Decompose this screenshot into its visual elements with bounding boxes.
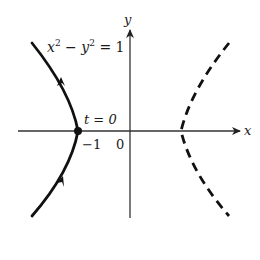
right-branch-curve bbox=[181, 43, 229, 216]
equation-label: x2 − y2 = 1 bbox=[47, 38, 124, 55]
tick-label-neg-one: −1 bbox=[82, 137, 101, 152]
tick-label-zero: 0 bbox=[116, 137, 124, 152]
y-axis-label: y bbox=[123, 12, 132, 27]
vertex-point bbox=[74, 127, 82, 135]
point-label: t = 0 bbox=[84, 112, 117, 127]
x-axis-label: x bbox=[244, 123, 252, 138]
left-branch-curve bbox=[32, 43, 78, 216]
hyperbola-diagram: x y x2 − y2 = 1 t = 0 −1 0 bbox=[0, 0, 260, 260]
